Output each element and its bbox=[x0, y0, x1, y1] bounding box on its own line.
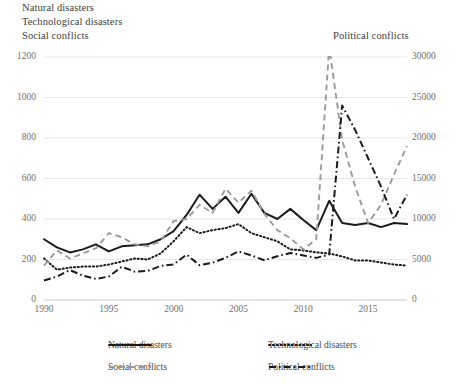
y-axis-right-tick: 15000 bbox=[412, 173, 452, 183]
legend-key-dashdot bbox=[268, 362, 312, 372]
x-axis-tick: 1990 bbox=[24, 304, 64, 314]
x-axis-tick: 2015 bbox=[348, 304, 388, 314]
plot-area bbox=[0, 0, 455, 385]
y-axis-left-tick: 400 bbox=[2, 213, 36, 223]
x-axis-tick: 2005 bbox=[218, 304, 258, 314]
y-axis-right-tick: 30000 bbox=[412, 51, 452, 61]
y-axis-left-tick: 1000 bbox=[2, 92, 36, 102]
y-axis-right-tick: 20000 bbox=[412, 132, 452, 142]
x-axis-tick: 2000 bbox=[154, 304, 194, 314]
y-axis-right-tick: 10000 bbox=[412, 213, 452, 223]
y-axis-right-tick: 25000 bbox=[412, 92, 452, 102]
legend-item-social-conflicts[interactable]: Social conflicts bbox=[108, 362, 167, 372]
legend-item-technological-disasters[interactable]: Technological disasters bbox=[268, 340, 357, 350]
legend-key-solid bbox=[108, 340, 152, 350]
series-group bbox=[44, 47, 407, 281]
legend-key-dashed bbox=[108, 362, 152, 372]
y-axis-left-tick: 1200 bbox=[2, 51, 36, 61]
y-axis-right-tick: 5000 bbox=[412, 254, 452, 264]
x-axis-tick: 2010 bbox=[283, 304, 323, 314]
y-axis-left-tick: 600 bbox=[2, 173, 36, 183]
series-line-political-conflicts bbox=[44, 106, 407, 281]
legend-item-natural-disasters[interactable]: Natural disasters bbox=[108, 340, 172, 350]
legend-key-dotted bbox=[268, 340, 312, 350]
y-axis-right-tick: 0 bbox=[412, 294, 452, 304]
chart-container: Natural disasters Technological disaster… bbox=[0, 0, 455, 385]
y-axis-left-tick: 800 bbox=[2, 132, 36, 142]
x-axis-tick: 1995 bbox=[89, 304, 129, 314]
y-axis-left-tick: 0 bbox=[2, 294, 36, 304]
legend-item-political-conflicts[interactable]: Political conflicts bbox=[268, 362, 335, 372]
series-line-social-conflicts bbox=[44, 47, 407, 266]
series-line-natural-disasters bbox=[44, 194, 407, 253]
y-axis-left-tick: 200 bbox=[2, 254, 36, 264]
